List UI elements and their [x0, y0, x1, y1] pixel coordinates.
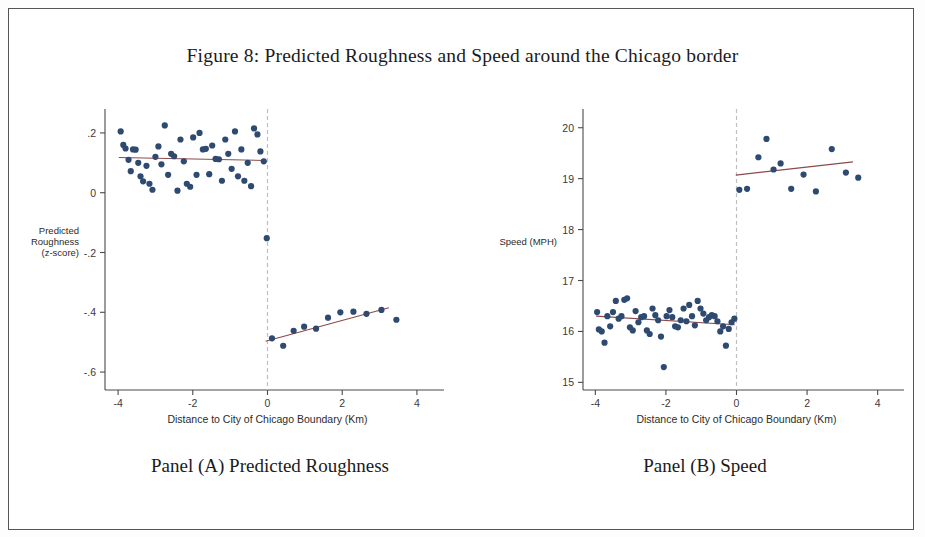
- data-point: [675, 324, 681, 330]
- data-point: [152, 154, 158, 160]
- x-tick-label: 2: [804, 397, 810, 409]
- data-point: [714, 318, 720, 324]
- data-point: [604, 313, 610, 319]
- data-point: [238, 146, 244, 152]
- y-tick-label: 18: [562, 224, 574, 236]
- data-point: [203, 146, 209, 152]
- data-point: [325, 315, 331, 321]
- panel-b-chart: 201918171615-4-2024Distance to City of C…: [470, 95, 920, 440]
- data-point: [171, 153, 177, 159]
- data-point: [241, 178, 247, 184]
- x-tick-label: -4: [591, 397, 600, 409]
- data-point: [800, 171, 806, 177]
- data-point: [843, 169, 849, 175]
- data-point: [232, 128, 238, 134]
- data-point: [731, 316, 737, 322]
- data-point: [206, 171, 212, 177]
- data-point: [778, 160, 784, 166]
- data-point: [235, 173, 241, 179]
- x-tick-label: -2: [188, 397, 197, 409]
- data-point: [618, 313, 624, 319]
- fit-line: [736, 162, 853, 175]
- data-point: [788, 186, 794, 192]
- data-point: [624, 295, 630, 301]
- data-point: [855, 175, 861, 181]
- fit-line: [266, 308, 389, 341]
- y-axis-title-line: (z-score): [42, 247, 79, 258]
- data-point: [678, 317, 684, 323]
- data-point: [162, 122, 168, 128]
- y-tick-label: 17: [562, 275, 574, 287]
- data-point: [666, 307, 672, 313]
- panel-b-caption: Panel (B) Speed: [540, 455, 870, 477]
- data-point: [219, 178, 225, 184]
- data-point: [680, 305, 686, 311]
- x-axis-title: Distance to City of Chicago Boundary (Km…: [167, 413, 367, 425]
- data-point: [613, 298, 619, 304]
- data-point: [125, 157, 131, 163]
- data-point: [641, 313, 647, 319]
- data-point: [599, 328, 605, 334]
- data-point: [133, 147, 139, 153]
- y-tick-label: 0: [90, 187, 96, 199]
- data-point: [692, 322, 698, 328]
- y-tick-label: -.2: [84, 247, 96, 259]
- y-tick-label: 15: [562, 376, 574, 388]
- panel-a-plot: .20-.2-.4-.6-4-2024Distance to City of C…: [10, 95, 460, 440]
- data-point: [813, 188, 819, 194]
- data-point: [683, 318, 689, 324]
- data-point: [607, 323, 613, 329]
- data-point: [664, 313, 670, 319]
- x-tick-label: 0: [734, 397, 740, 409]
- data-point: [393, 317, 399, 323]
- data-point: [187, 184, 193, 190]
- y-tick-label: .2: [87, 127, 96, 139]
- y-axis-title-line: Predicted: [39, 225, 79, 236]
- data-point: [744, 186, 750, 192]
- x-tick-label: -2: [661, 397, 670, 409]
- data-point: [829, 146, 835, 152]
- data-point: [143, 163, 149, 169]
- data-point: [251, 125, 257, 131]
- data-point: [723, 343, 729, 349]
- data-point: [313, 326, 319, 332]
- data-point: [601, 340, 607, 346]
- data-point: [181, 158, 187, 164]
- x-tick-label: 0: [265, 397, 271, 409]
- data-point: [655, 317, 661, 323]
- data-point: [216, 156, 222, 162]
- data-point: [658, 333, 664, 339]
- fit-line: [119, 157, 266, 160]
- data-point: [155, 143, 161, 149]
- panel-a-caption: Panel (A) Predicted Roughness: [60, 455, 480, 477]
- data-point: [128, 168, 134, 174]
- data-point: [257, 148, 263, 154]
- data-point: [301, 324, 307, 330]
- data-point: [196, 130, 202, 136]
- data-point: [209, 142, 215, 148]
- panel-a-chart: .20-.2-.4-.6-4-2024Distance to City of C…: [10, 95, 460, 440]
- x-axis-title: Distance to City of Chicago Boundary (Km…: [636, 413, 836, 425]
- data-point: [736, 187, 742, 193]
- data-point: [122, 145, 128, 151]
- y-axis-title-line: Roughness: [31, 236, 79, 247]
- data-point: [700, 311, 706, 317]
- data-point: [149, 187, 155, 193]
- y-axis-title-line: Speed (MPH): [499, 236, 557, 247]
- data-point: [135, 160, 141, 166]
- data-point: [363, 311, 369, 317]
- figure-page: Figure 8: Predicted Roughness and Speed …: [0, 0, 925, 537]
- y-tick-label: 20: [562, 122, 574, 134]
- data-point: [280, 343, 286, 349]
- y-tick-label: 16: [562, 325, 574, 337]
- x-tick-label: 4: [875, 397, 881, 409]
- data-point: [689, 313, 695, 319]
- data-point: [146, 181, 152, 187]
- data-point: [269, 335, 275, 341]
- data-point: [158, 161, 164, 167]
- y-tick-label: -.4: [84, 306, 96, 318]
- data-point: [174, 188, 180, 194]
- data-point: [337, 309, 343, 315]
- x-tick-label: 2: [339, 397, 345, 409]
- data-point: [610, 309, 616, 315]
